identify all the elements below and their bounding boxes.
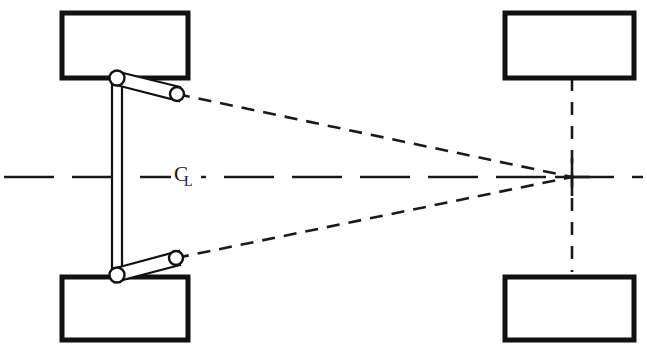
diagram-canvas	[0, 0, 647, 355]
upper-projection-to-instant-center	[177, 94, 572, 177]
lower-tie-rod-ball-joint	[169, 251, 183, 265]
vertical-drag-link	[112, 80, 122, 273]
upper-kingpin-pivot	[110, 71, 125, 86]
lower-kingpin-pivot	[110, 268, 125, 283]
centerline-l-glyph: L	[184, 174, 193, 189]
upper-tie-rod-ball-joint	[170, 87, 184, 101]
rear-right-wheel	[505, 277, 634, 340]
centerline-symbol: CL	[174, 164, 196, 185]
front-left-wheel	[62, 13, 188, 78]
rear-left-wheel	[62, 277, 188, 340]
steering-geometry-diagram: CL	[0, 0, 647, 355]
front-right-wheel	[505, 13, 634, 78]
lower-projection-to-instant-center	[176, 177, 572, 258]
